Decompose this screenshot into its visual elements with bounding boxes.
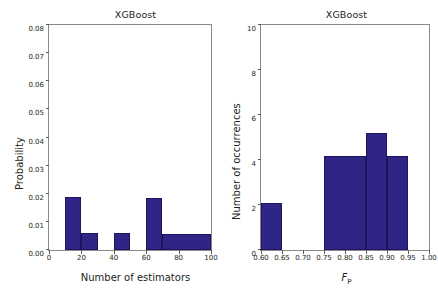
x-tick-mark bbox=[429, 250, 430, 254]
x-tick-mark bbox=[345, 250, 346, 254]
x-tick-label: 60 bbox=[142, 254, 151, 262]
panel-left: XGBoost Probability 0.000.010.020.030.04… bbox=[0, 0, 219, 295]
x-axis-label-left: Number of estimators bbox=[0, 272, 245, 283]
y-tick-mark bbox=[46, 52, 50, 53]
x-tick-label: 80 bbox=[174, 254, 183, 262]
panel-right: XGBoost Number of occurrences 02468100.6… bbox=[219, 0, 438, 295]
x-tick-mark bbox=[303, 250, 304, 254]
x-tick-mark bbox=[366, 250, 367, 254]
y-tick-mark bbox=[46, 221, 50, 222]
x-tick-label: 0.65 bbox=[274, 254, 290, 262]
y-tick-mark bbox=[46, 193, 50, 194]
plot-area-left: 0.000.010.020.030.040.050.060.070.080204… bbox=[48, 24, 212, 251]
x-tick-mark bbox=[179, 250, 180, 254]
x-tick-label: 0.90 bbox=[379, 254, 395, 262]
x-tick-mark bbox=[408, 250, 409, 254]
x-tick-label: 1.00 bbox=[421, 254, 437, 262]
bars-left bbox=[49, 25, 211, 250]
x-tick-label: 0.60 bbox=[253, 254, 269, 262]
y-tick-mark bbox=[46, 137, 50, 138]
x-tick-label: 0.80 bbox=[337, 254, 353, 262]
x-tick-mark bbox=[211, 250, 212, 254]
histogram-bar bbox=[324, 156, 366, 251]
histogram-bar bbox=[65, 197, 81, 250]
figure-container: XGBoost Probability 0.000.010.020.030.04… bbox=[0, 0, 438, 295]
x-tick-mark bbox=[114, 250, 115, 254]
x-tick-mark bbox=[324, 250, 325, 254]
plot-area-right: 02468100.600.650.700.750.800.850.900.951… bbox=[260, 24, 430, 251]
chart-title-left: XGBoost bbox=[0, 9, 245, 20]
x-tick-label: 100 bbox=[204, 254, 217, 262]
y-tick-mark bbox=[46, 108, 50, 109]
x-tick-mark bbox=[49, 250, 50, 254]
chart-title-right: XGBoost bbox=[219, 9, 438, 20]
y-tick-mark bbox=[258, 159, 262, 160]
y-tick-mark bbox=[258, 204, 262, 205]
x-tick-label: 0.85 bbox=[358, 254, 374, 262]
histogram-bar bbox=[261, 203, 282, 250]
histogram-bar bbox=[114, 233, 130, 250]
x-tick-label: 40 bbox=[109, 254, 118, 262]
x-tick-mark bbox=[146, 250, 147, 254]
y-axis-label-right: Number of occurrences bbox=[231, 103, 242, 220]
y-tick-mark bbox=[258, 114, 262, 115]
y-tick-mark bbox=[258, 24, 262, 25]
x-tick-label: 0 bbox=[47, 254, 51, 262]
y-tick-mark bbox=[46, 165, 50, 166]
histogram-bar bbox=[366, 133, 387, 250]
x-tick-mark bbox=[282, 250, 283, 254]
histogram-bar bbox=[387, 156, 408, 251]
x-tick-mark bbox=[261, 250, 262, 254]
y-tick-mark bbox=[46, 24, 50, 25]
y-tick-mark bbox=[258, 69, 262, 70]
y-tick-mark bbox=[46, 80, 50, 81]
x-tick-label: 0.70 bbox=[295, 254, 311, 262]
bars-right bbox=[261, 25, 429, 250]
histogram-bar bbox=[162, 234, 211, 250]
x-tick-mark bbox=[81, 250, 82, 254]
x-axis-label-right-sub: P bbox=[347, 277, 351, 286]
y-axis-label-left: Probability bbox=[14, 137, 25, 190]
x-tick-label: 20 bbox=[77, 254, 86, 262]
histogram-bar bbox=[81, 233, 97, 250]
x-tick-label: 0.95 bbox=[400, 254, 416, 262]
histogram-bar bbox=[146, 198, 162, 250]
x-axis-label-right: FP bbox=[219, 272, 438, 286]
x-tick-mark bbox=[387, 250, 388, 254]
x-tick-label: 0.75 bbox=[316, 254, 332, 262]
